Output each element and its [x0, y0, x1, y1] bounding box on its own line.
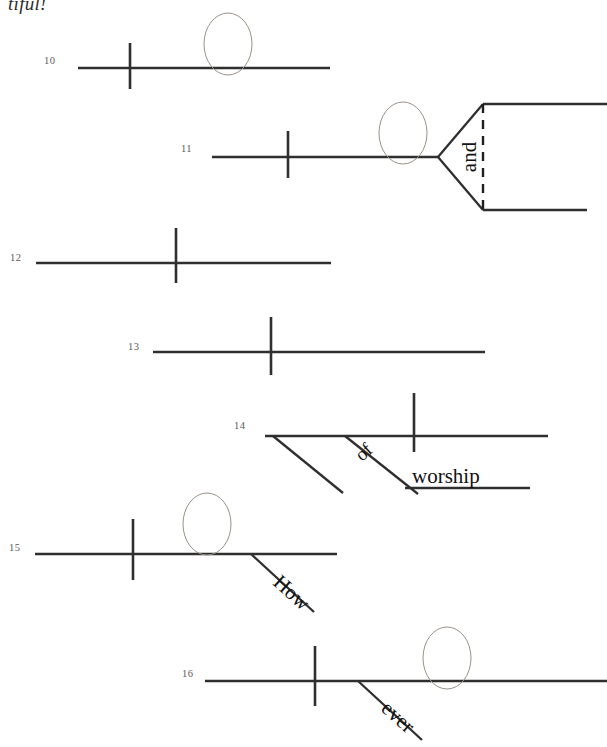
diagram-row: 15How [9, 493, 337, 616]
diagram-rows-group: 1011and121314ofworship15How16ever [9, 13, 607, 740]
diagram-row: 16ever [182, 627, 607, 740]
diagram-row: 14ofworship [234, 393, 548, 494]
modifier-line [273, 436, 343, 493]
worksheet-page: tiful! 1011and121314ofworship15How16ever [0, 0, 607, 747]
diagram-row: 12 [10, 228, 331, 283]
row-number-label: 14 [234, 420, 246, 431]
conjunction-label: and [457, 141, 481, 172]
row-number-label: 10 [44, 55, 55, 66]
row-number-label: 15 [9, 542, 20, 553]
word-label: worship [412, 464, 480, 488]
row-number-label: 12 [10, 252, 21, 263]
row-number-label: 11 [181, 143, 192, 154]
row-number-label: 13 [128, 341, 139, 352]
ellipse-annotation [379, 102, 427, 164]
ellipse-annotation [204, 13, 252, 75]
sentence-diagram-canvas: 1011and121314ofworship15How16ever [0, 0, 607, 747]
ellipse-annotation [183, 493, 231, 555]
diagram-row: 11and [181, 102, 607, 210]
diagram-row: 13 [128, 317, 485, 375]
diagram-row: 10 [44, 13, 330, 89]
row-number-label: 16 [182, 668, 193, 679]
